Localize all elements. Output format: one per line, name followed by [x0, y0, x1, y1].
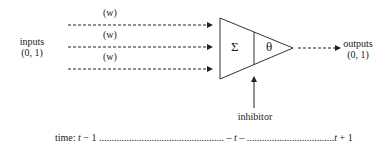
inputs-label: inputs [14, 36, 50, 47]
weight-label-3: (w) [103, 51, 117, 62]
time-t-plus-op: + 1 [337, 132, 353, 143]
outputs-label: outputs [340, 38, 376, 49]
time-axis: time: t − 1 ............................… [55, 132, 353, 143]
inhibitor-label: inhibitor [225, 111, 285, 122]
weight-label-2: (w) [103, 29, 117, 40]
time-prefix: time: [55, 132, 76, 143]
time-dots-1: ........................................… [99, 132, 224, 143]
weight-label-1: (w) [103, 7, 117, 18]
time-t-minus-op: − 1 [81, 132, 99, 143]
time-middle: – t – [224, 132, 247, 143]
outputs-range: (0, 1) [340, 49, 376, 60]
time-dots-2: ................................... [247, 132, 335, 143]
threshold-symbol: θ [266, 40, 272, 54]
inputs-range: (0, 1) [14, 47, 50, 58]
sum-symbol: Σ [231, 40, 239, 54]
neuron-diagram-canvas [0, 0, 391, 154]
